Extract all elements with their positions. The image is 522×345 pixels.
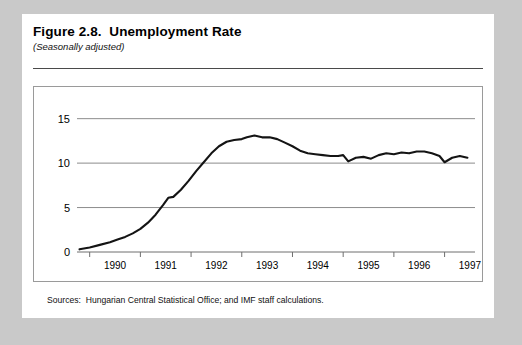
- page-title: Figure 2.8. Unemployment Rate: [33, 24, 483, 39]
- xtick-label-1996: 1996: [408, 260, 431, 271]
- ytick-label-5: 5: [64, 202, 70, 214]
- data-line-series-0: [80, 136, 468, 250]
- xtick-label-1993: 1993: [256, 260, 279, 271]
- xtick-label-1990: 1990: [104, 260, 127, 271]
- xtick-label-1991: 1991: [155, 260, 178, 271]
- ytick-label-10: 10: [58, 157, 70, 169]
- ytick-label-15: 15: [58, 113, 70, 125]
- xtick-label-1992: 1992: [205, 260, 228, 271]
- source-note: Sources: Hungarian Central Statistical O…: [47, 295, 324, 305]
- xtick-label-1997: 1997: [459, 260, 482, 271]
- xtick-label-1995: 1995: [357, 260, 380, 271]
- unemployment-line-chart: 05101519901991199219931994199519961997: [33, 86, 483, 282]
- header-divider: [33, 68, 483, 69]
- figure-subtitle: (Seasonally adjusted): [33, 41, 483, 52]
- figure-header: Figure 2.8. Unemployment Rate (Seasonall…: [33, 24, 483, 52]
- figure-card: Figure 2.8. Unemployment Rate (Seasonall…: [22, 14, 494, 318]
- ytick-label-0: 0: [64, 246, 70, 258]
- xtick-label-1994: 1994: [307, 260, 330, 271]
